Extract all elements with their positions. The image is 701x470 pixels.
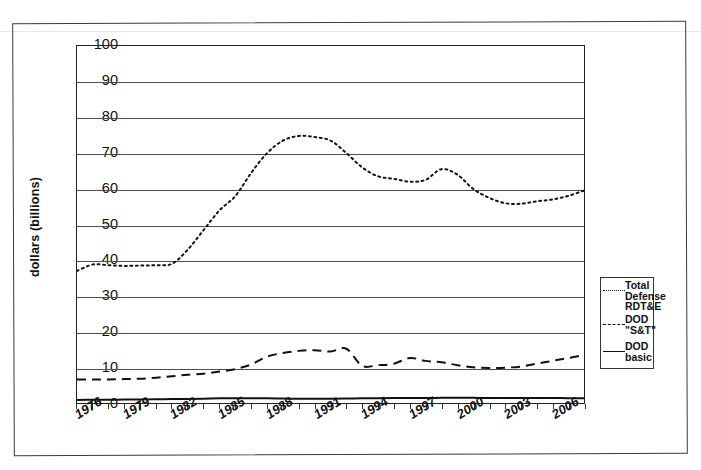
legend-label: Total Defense RDT&E xyxy=(625,280,666,312)
series-path xyxy=(77,348,584,379)
x-tick-mark xyxy=(585,404,586,409)
series-lines xyxy=(77,46,584,403)
y-axis-title: dollars (billions) xyxy=(24,165,44,295)
legend-label: DOD basic xyxy=(625,341,652,362)
legend-item: DOD "S&T" xyxy=(603,314,656,335)
x-tick-mark xyxy=(394,404,395,409)
x-tick-mark xyxy=(156,404,157,409)
x-tick-mark xyxy=(346,404,347,409)
legend-item: Total Defense RDT&E xyxy=(603,280,666,312)
x-tick-mark xyxy=(490,404,491,409)
legend-key-dotted-icon xyxy=(603,285,625,297)
plot-area xyxy=(76,45,585,404)
y-axis-title-text: dollars (billions) xyxy=(28,162,42,292)
legend-key-dashed-icon xyxy=(603,319,625,331)
chart-page: dollars (billions) 010203040506070809010… xyxy=(0,0,701,470)
legend: Total Defense RDT&EDOD "S&T"DOD basic xyxy=(600,277,654,369)
x-tick-mark xyxy=(442,404,443,409)
x-tick-mark xyxy=(251,404,252,409)
x-tick-mark xyxy=(299,404,300,409)
x-tick-mark xyxy=(203,404,204,409)
legend-key-solid-icon xyxy=(603,346,625,358)
legend-item: DOD basic xyxy=(603,341,652,362)
series-path xyxy=(77,136,584,271)
legend-label: DOD "S&T" xyxy=(625,314,656,335)
x-tick-mark xyxy=(537,404,538,409)
x-tick-mark xyxy=(108,404,109,409)
